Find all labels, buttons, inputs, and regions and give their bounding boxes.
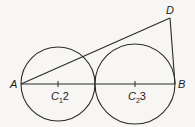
label-point-a: A [10,79,17,90]
label-center-c1: C12 [51,91,69,102]
label-point-b: B [178,79,185,90]
radius-value: 2 [63,90,69,102]
segment-ad [21,18,170,84]
segment-db [170,18,175,84]
label-point-d: D [166,5,174,16]
center-subscript: 1 [59,97,63,104]
center-subscript: 2 [136,97,140,104]
center-letter: C [128,90,136,102]
center-letter: C [51,90,59,102]
geometry-diagram: A B D C12 C23 [0,0,195,127]
label-center-c2: C23 [128,91,146,102]
diagram-canvas [0,0,195,127]
radius-value: 3 [140,90,146,102]
